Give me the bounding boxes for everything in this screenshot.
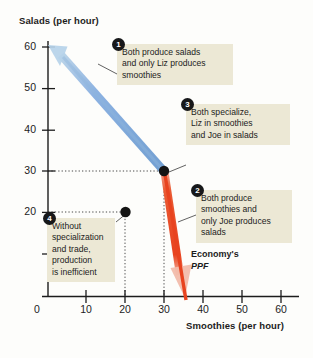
callout-2-badge: 2 [191, 184, 204, 197]
callout-1-text: Both produce salads and only Liz produce… [117, 44, 233, 85]
y-tick-label-20: 20 [14, 205, 36, 217]
x-tick-label-0: 0 [26, 303, 48, 315]
callout-3-badge: 3 [181, 98, 194, 111]
leader-2 [178, 215, 196, 222]
callout-2-text: Both produce smoothies and only Joe prod… [196, 190, 292, 243]
leader-3 [169, 165, 186, 172]
callout-leader-lines [98, 64, 196, 222]
x-tick-label-40: 40 [192, 303, 214, 315]
y-tick-label-30: 30 [14, 164, 36, 176]
specialization-point [159, 166, 169, 176]
x-tick-label-60: 60 [270, 303, 292, 315]
callout-4-text: Without specialization and trade, produc… [47, 218, 115, 282]
callout-3-text: Both specialize, Liz in smoothies and Jo… [186, 104, 290, 145]
economy-ppf-label: Economy's PPF [191, 249, 239, 272]
callout-1-badge: 1 [112, 38, 125, 51]
data-points [120, 166, 169, 217]
y-tick-label-60: 60 [14, 40, 36, 52]
x-axis-title: Smoothies (per hour) [186, 320, 284, 331]
x-tick-label-50: 50 [231, 303, 253, 315]
y-tick-label-40: 40 [14, 123, 36, 135]
joe-ppf-segment [165, 172, 192, 300]
y-tick-label-50: 50 [14, 81, 36, 93]
y-axis-title: Salads (per hour) [19, 15, 99, 26]
x-tick-label-20: 20 [114, 303, 136, 315]
leader-1 [98, 64, 117, 74]
ppf-chart-figure: Salads (per hour) Smoothies (per hour) 6… [0, 0, 313, 358]
x-tick-label-30: 30 [153, 303, 175, 315]
ppf-label-line2: PPF [191, 261, 239, 273]
inefficient-point [120, 207, 130, 217]
x-tick-label-10: 10 [75, 303, 97, 315]
callout-4-badge: 4 [43, 212, 56, 225]
ppf-label-line1: Economy's [191, 249, 239, 261]
